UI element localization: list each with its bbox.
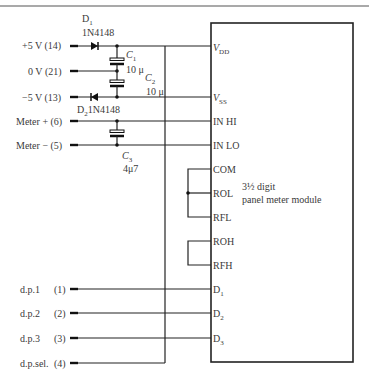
svg-text:d.p.3: d.p.3 [20, 333, 40, 344]
svg-text:d.p.2: d.p.2 [20, 308, 40, 319]
row-dp3: d.p.3 (3) [20, 333, 211, 345]
row-0v: 0 V (21) [28, 66, 119, 78]
pin-roh: ROH [213, 236, 234, 247]
pin-com: COM [213, 164, 236, 175]
svg-text:(1): (1) [54, 284, 66, 296]
svg-text:Meter − (5): Meter − (5) [16, 140, 62, 152]
d1-part: 1N4148 [82, 27, 114, 38]
svg-text:(2): (2) [54, 308, 66, 320]
svg-text:−5 V (13): −5 V (13) [22, 92, 61, 104]
svg-text:0 V (21): 0 V (21) [28, 66, 62, 78]
pin-d2: D2 [213, 308, 224, 322]
pin-vss: VSS [213, 92, 227, 106]
svg-text:Meter + (6): Meter + (6) [16, 116, 62, 128]
pin-vdd: VDD [213, 42, 229, 56]
row-dp-sel: d.p.sel. (4) [20, 358, 165, 370]
row-meter-plus: Meter + (6) [16, 116, 211, 128]
pin-rol: ROL [213, 188, 233, 199]
row-minus5v: −5 V (13) D21N4148 [22, 92, 211, 118]
pin-in-hi: IN HI [213, 116, 237, 127]
pin-rfh: RFH [213, 260, 232, 271]
module-label-line2: panel meter module [242, 194, 322, 205]
svg-text:(3): (3) [54, 333, 66, 345]
pin-in-lo: IN LO [213, 140, 239, 151]
d2-label: D21N4148 [77, 104, 120, 118]
c3-ref: C3 [122, 150, 133, 164]
svg-text:d.p.1: d.p.1 [20, 284, 40, 295]
pin-d1: D1 [213, 284, 224, 298]
circuit-diagram: 3½ digit panel meter module +5 V (14) D1… [0, 0, 369, 382]
capacitor-c2-icon [110, 71, 124, 97]
c1-value: 10 μ [126, 64, 144, 75]
row-meter-minus: Meter − (5) [16, 140, 211, 152]
c3-value: 4μ7 [123, 163, 138, 174]
capacitor-c1-icon [110, 46, 124, 71]
c2-value: 10 μ [146, 86, 164, 97]
c2-ref: C2 [145, 72, 156, 86]
d1-ref: D1 [82, 13, 93, 27]
capacitor-c3-icon [110, 121, 124, 145]
pin-d3: D3 [213, 333, 224, 347]
module-label-line1: 3½ digit [242, 181, 276, 192]
pin-rfl: RFL [213, 212, 231, 223]
svg-text:+5 V (14): +5 V (14) [22, 40, 61, 52]
roh-rfh-link [188, 241, 211, 265]
row-dp1: d.p.1 (1) [20, 284, 211, 296]
c1-ref: C1 [126, 49, 137, 63]
diode-d1-icon [91, 42, 98, 50]
svg-text:(4): (4) [54, 358, 66, 370]
svg-text:d.p.sel.: d.p.sel. [20, 358, 49, 369]
row-dp2: d.p.2 (2) [20, 308, 211, 320]
diode-d2-icon [91, 93, 98, 101]
com-rol-rfl-link [186, 169, 211, 217]
